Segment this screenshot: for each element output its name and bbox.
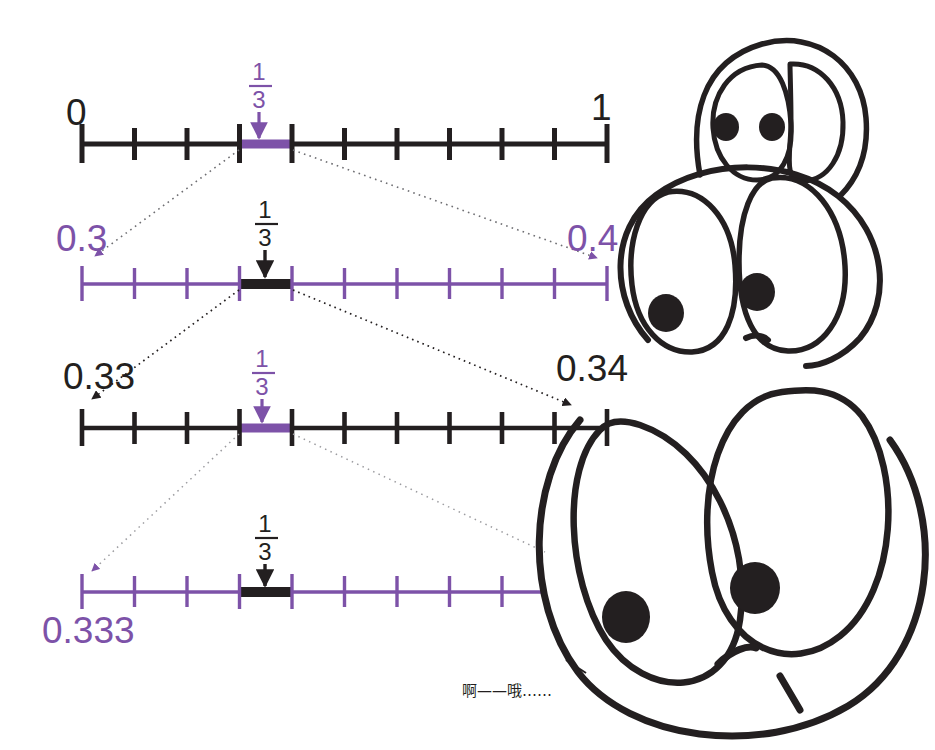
face-medium-pupil-right: [739, 273, 775, 311]
connector-left-3: [92, 434, 239, 571]
connector-line1-to-line2: [95, 150, 597, 258]
face-small-eye-right: [789, 64, 843, 181]
line-2-end-label: 0.4: [567, 218, 618, 259]
line-1-fraction-numerator: 1: [252, 58, 265, 85]
line-1-fraction-marker: 1 3: [249, 58, 272, 138]
connector-right-2: [293, 290, 571, 405]
connector-line3-to-line4: [92, 434, 545, 571]
number-line-1: 0 1 1 3: [66, 58, 612, 163]
face-large-pupil-right: [730, 562, 780, 614]
line-3-fraction-numerator: 1: [255, 345, 268, 372]
number-line-3: 0.33 0.34 1 3: [63, 345, 628, 446]
speech-text: 啊——哦……: [462, 682, 552, 700]
face-large-cheek-mark: [780, 676, 800, 710]
line-3-end-label: 0.34: [556, 348, 628, 389]
number-line-figure: 0 1 1 3 0.3 0.4: [0, 0, 935, 750]
figure-canvas: 0 1 1 3 0.3 0.4: [0, 0, 935, 750]
face-medium-eye-right: [739, 177, 845, 351]
line-2-fraction-numerator: 1: [258, 196, 271, 223]
speech-annotation: 啊——哦……: [462, 660, 586, 700]
face-small-pupil-right: [759, 113, 785, 141]
connector-right-1: [293, 150, 597, 258]
line-2-start-label: 0.3: [56, 218, 107, 259]
line-4-fraction-marker: 1 3: [255, 510, 278, 586]
connector-left-1: [95, 150, 239, 256]
face-medium: [620, 167, 879, 366]
line-3-start-label: 0.33: [63, 356, 135, 397]
line-4-fraction-denominator: 3: [258, 538, 271, 565]
number-line-4: 0.333 1 3: [42, 510, 545, 651]
line-3-fraction-marker: 1 3: [252, 345, 275, 422]
face-large-pupil-left: [602, 591, 650, 643]
line-4-start-label: 0.333: [42, 610, 135, 651]
line-1-fraction-denominator: 3: [252, 86, 265, 113]
face-large-eye-right: [707, 390, 888, 654]
face-large-mouth: [718, 647, 756, 664]
face-large: [539, 390, 925, 736]
line-2-fraction-denominator: 3: [258, 224, 271, 251]
face-small-pupil-left: [713, 113, 739, 141]
number-line-2: 0.3 0.4 1 3: [56, 196, 618, 301]
line-1-end-label: 1: [591, 87, 612, 128]
face-medium-eye-left: [631, 191, 736, 352]
line-2-fraction-marker: 1 3: [255, 196, 278, 277]
connector-right-3: [293, 434, 545, 552]
face-medium-pupil-left: [648, 294, 684, 332]
connector-line2-to-line3: [92, 290, 571, 405]
line-4-fraction-numerator: 1: [258, 510, 271, 537]
line-3-fraction-denominator: 3: [255, 373, 268, 400]
